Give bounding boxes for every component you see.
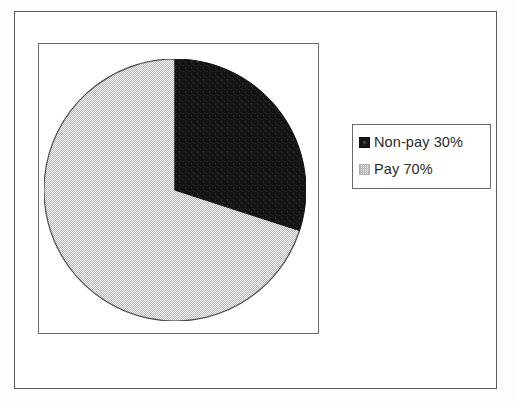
pie-svg xyxy=(44,59,306,321)
legend: Non-pay 30% Pay 70% xyxy=(352,124,491,189)
legend-swatch-non-pay-icon xyxy=(359,137,370,148)
figure-outer-border: Non-pay 30% Pay 70% xyxy=(14,11,497,389)
legend-label-pay: Pay 70% xyxy=(374,161,433,177)
legend-entry-pay: Pay 70% xyxy=(359,161,433,177)
pie-chart-figure: Non-pay 30% Pay 70% xyxy=(0,0,516,405)
legend-swatch-pay-icon xyxy=(359,164,370,175)
pie-chart xyxy=(44,59,306,321)
legend-entry-non-pay: Non-pay 30% xyxy=(359,134,463,150)
legend-label-non-pay: Non-pay 30% xyxy=(374,134,463,150)
